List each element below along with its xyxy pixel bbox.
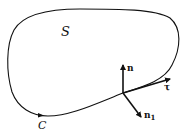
- vector-n1-arrow-icon: [123, 93, 141, 117]
- vector-label-tau: τ: [164, 82, 170, 92]
- boundary-curve-c: [8, 9, 179, 116]
- vector-label-n1-subscript: 1: [151, 113, 156, 122]
- vector-tau-arrow-icon: [123, 79, 170, 93]
- curve-label-c: C: [38, 119, 47, 132]
- vector-label-n1: n1: [144, 110, 156, 122]
- diagram-canvas: S C n τ n1: [0, 0, 187, 133]
- region-label-s: S: [61, 24, 70, 39]
- vector-label-n: n: [127, 63, 134, 73]
- curve-direction-arrow-icon: [38, 113, 44, 118]
